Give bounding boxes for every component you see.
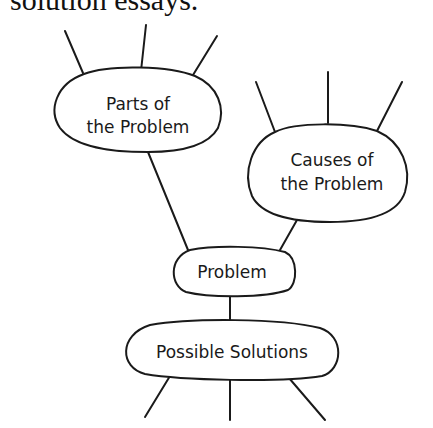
node-problem: Problem <box>174 247 295 296</box>
causes-branches <box>256 72 402 132</box>
node-causes-of-problem: Causes of the Problem <box>248 124 407 222</box>
cluster-diagram: Parts of the Problem Causes of the Probl… <box>0 0 433 428</box>
solutions-branches <box>145 376 325 420</box>
node-possible-solutions: Possible Solutions <box>126 320 338 380</box>
node-parts-of-problem: Parts of the Problem <box>55 67 221 152</box>
problem-label: Problem <box>197 262 267 282</box>
solutions-label: Possible Solutions <box>156 342 308 362</box>
causes-label-line1: Causes of <box>290 150 374 170</box>
parts-label-line1: Parts of <box>106 94 171 114</box>
causes-label-line2: the Problem <box>281 174 384 194</box>
parts-label-line2: the Problem <box>87 117 190 137</box>
